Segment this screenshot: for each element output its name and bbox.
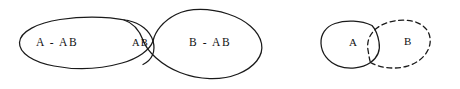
venn-figure-canvas: A - AB AB B - AB A B xyxy=(0,0,460,89)
label-ab-intersection: AB xyxy=(132,37,149,48)
label-set-a: A xyxy=(349,36,357,48)
label-set-b: B xyxy=(404,35,412,47)
set-b-outline-right-diagram xyxy=(368,20,431,68)
right-diagram-group xyxy=(321,20,430,68)
label-a-minus-ab: A - AB xyxy=(36,36,78,48)
label-b-minus-ab: B - AB xyxy=(189,36,231,48)
